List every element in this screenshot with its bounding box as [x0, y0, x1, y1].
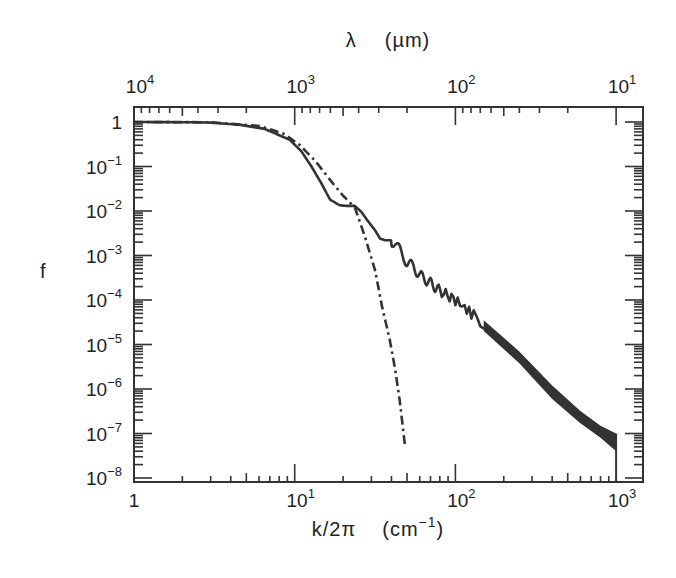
x-axis-title: k/2π(cm−1): [312, 514, 444, 540]
plot-curves: [134, 122, 616, 482]
top-x-tick-label: 102: [447, 72, 475, 97]
chart: 1101102103104103102101110−110−210−310−41…: [0, 0, 676, 578]
axis-ticks: [134, 107, 643, 482]
oscillation-band: [484, 320, 616, 451]
y-tick-label: 1: [111, 112, 122, 133]
top-x-tick-label: 104: [126, 72, 154, 97]
y-tick-label: 10−1: [86, 153, 122, 178]
y-tick-label: 10−4: [86, 286, 122, 311]
dash-dot-curve: [134, 122, 405, 445]
x-tick-label: 1: [129, 490, 140, 511]
y-tick-label: 10−3: [86, 242, 122, 267]
y-axis-title: f: [40, 260, 47, 282]
top-x-tick-label: 103: [287, 72, 315, 97]
x-tick-label: 102: [447, 486, 475, 511]
y-tick-label: 10−7: [86, 420, 122, 445]
solid-curve: [134, 122, 616, 443]
y-tick-label: 10−8: [86, 464, 122, 489]
x-tick-label: 101: [287, 486, 315, 511]
y-tick-label: 10−2: [86, 197, 122, 222]
tick-labels: 1101102103104103102101110−110−210−310−41…: [86, 72, 636, 511]
top-x-tick-label: 101: [608, 72, 636, 97]
y-tick-label: 10−5: [86, 331, 122, 356]
plot-frame: [134, 107, 643, 482]
top-axis-title: λ(µm): [346, 29, 431, 51]
x-tick-label: 103: [608, 486, 636, 511]
y-tick-label: 10−6: [86, 375, 122, 400]
